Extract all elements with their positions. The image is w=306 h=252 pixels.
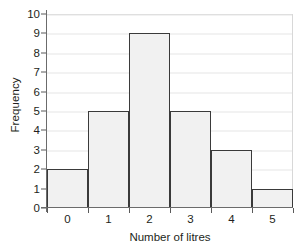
y-axis-tick-labels: 012345678910 <box>22 14 40 208</box>
y-tick-label: 3 <box>34 144 40 156</box>
y-tick-label: 8 <box>34 47 40 59</box>
x-tick-label: 2 <box>146 213 152 225</box>
x-axis-title: Number of litres <box>47 231 293 243</box>
y-tick-label: 6 <box>34 86 40 98</box>
bar <box>252 189 293 208</box>
bar-series <box>47 15 292 208</box>
bar <box>129 33 170 208</box>
y-tick-label: 1 <box>34 183 40 195</box>
y-tick-label: 4 <box>34 124 40 136</box>
x-tick-label: 4 <box>228 213 234 225</box>
histogram-chart: Frequency 012345678910 012345 Number of … <box>0 0 306 252</box>
plot-area <box>47 14 293 208</box>
x-axis-tick-labels: 012345 <box>47 213 293 229</box>
x-tick-label: 1 <box>105 213 111 225</box>
bar <box>88 111 129 208</box>
y-tick-label: 9 <box>34 27 40 39</box>
y-axis-title-text: Frequency <box>9 77 21 132</box>
y-tick-label: 2 <box>34 163 40 175</box>
y-tick-label: 7 <box>34 66 40 78</box>
y-tick-label: 0 <box>34 202 40 214</box>
bar <box>47 169 88 208</box>
y-tick-label: 10 <box>27 8 40 20</box>
bar <box>170 111 211 208</box>
y-tick-label: 5 <box>34 105 40 117</box>
bar <box>211 150 252 208</box>
x-tick-label: 5 <box>269 213 275 225</box>
x-tick-label: 3 <box>187 213 193 225</box>
x-tick-mark <box>293 208 294 213</box>
x-tick-label: 0 <box>64 213 70 225</box>
